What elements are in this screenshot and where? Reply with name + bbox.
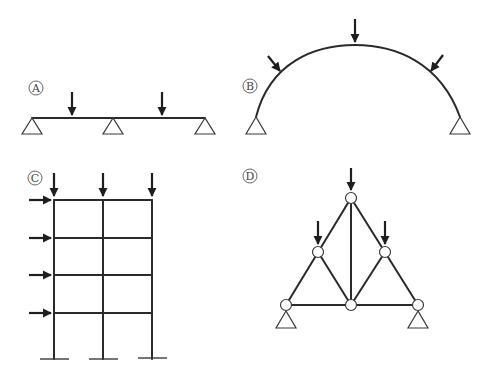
joint-node: [346, 193, 357, 204]
joint-node: [313, 247, 324, 258]
joint-node: [413, 300, 424, 311]
diagram-a-beam: A: [22, 81, 215, 134]
label-c: C: [28, 171, 42, 185]
svg-text:D: D: [246, 170, 255, 183]
diagram-c-frame: C: [28, 171, 167, 359]
diagram-b-arch: B: [243, 19, 470, 134]
pin-support-icon: [103, 118, 123, 134]
svg-text:C: C: [31, 172, 39, 185]
pin-support-icon: [408, 311, 428, 328]
diagonal-member: [318, 252, 351, 305]
svg-text:B: B: [246, 80, 254, 93]
pin-support-icon: [22, 118, 42, 134]
pin-support-icon: [450, 117, 470, 134]
arch: [256, 45, 460, 117]
load-arrow-icon: [431, 55, 443, 71]
joint-node: [281, 300, 292, 311]
label-b: B: [243, 79, 257, 93]
load-arrow-icon: [268, 56, 280, 71]
joint-node: [380, 247, 391, 258]
structures-diagram: A B C: [0, 0, 491, 378]
label-a: A: [29, 81, 43, 95]
svg-text:A: A: [31, 82, 41, 95]
pin-support-icon: [276, 311, 296, 328]
pin-support-icon: [195, 118, 215, 134]
diagonal-member: [351, 252, 385, 305]
joint-node: [346, 300, 357, 311]
pin-support-icon: [246, 117, 266, 134]
diagram-d-truss: D: [243, 168, 428, 328]
label-d: D: [243, 169, 257, 183]
